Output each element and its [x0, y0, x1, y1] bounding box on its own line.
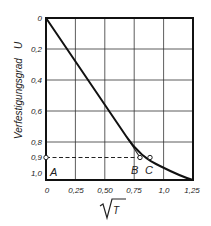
y-tick: 0,6 — [31, 107, 43, 116]
y-tick: 0,2 — [31, 45, 43, 54]
x-tick: 1,0 — [158, 186, 170, 195]
y-axis-label-symbol: U — [13, 41, 24, 49]
y-tick: 0,9 — [31, 153, 43, 162]
y-axis-label-text: Verfestigungsgrad — [13, 58, 24, 139]
x-tick: 0,25 — [68, 186, 84, 195]
consolidation-chart: A B C 0 0,2 0,4 0,6 0,8 0,9 1,0 0 0,25 0… — [0, 0, 211, 226]
y-tick: 0,8 — [31, 138, 43, 147]
x-tick: 0 — [45, 186, 50, 195]
point-c-marker — [148, 155, 152, 159]
point-a-marker — [44, 155, 48, 159]
x-axis-label-symbol: T — [113, 205, 120, 216]
x-tick: 1,25 — [184, 186, 200, 195]
y-tick: 0,4 — [31, 76, 43, 85]
y-tick: 1,0 — [31, 169, 43, 178]
point-b-marker — [138, 155, 142, 159]
x-tick: 0,75 — [126, 186, 142, 195]
point-a-label: A — [49, 166, 57, 178]
y-axis-ticks: 0 0,2 0,4 0,6 0,8 0,9 1,0 — [31, 14, 43, 178]
grid — [46, 18, 193, 180]
point-b-label: B — [131, 164, 138, 176]
x-axis-ticks: 0 0,25 0,50 0,75 1,0 1,25 — [45, 186, 201, 195]
point-c-label: C — [145, 164, 153, 176]
plot-frame — [46, 18, 193, 180]
y-axis-label: Verfestigungsgrad U — [13, 41, 24, 139]
x-tick: 0,50 — [97, 186, 113, 195]
x-axis-label: T — [100, 199, 126, 218]
y-tick: 0 — [38, 14, 43, 23]
consolidation-curve — [46, 18, 193, 180]
